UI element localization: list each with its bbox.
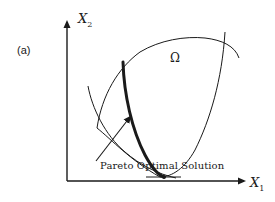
y-axis-label-subscript: 2 xyxy=(87,20,92,29)
x-axis-label: X1 xyxy=(250,176,264,193)
feasible-region-boundary xyxy=(97,32,239,177)
annotation-arrow xyxy=(96,117,130,161)
pareto-annotation-label: Pareto Optimal Solution xyxy=(100,161,224,171)
y-axis-label-text: X xyxy=(78,11,87,26)
panel-label: (a) xyxy=(17,45,30,56)
region-label: Ω xyxy=(170,52,180,64)
x-axis-label-text: X xyxy=(250,175,259,190)
x-axis-label-subscript: 1 xyxy=(259,184,264,193)
pareto-endpoint xyxy=(162,175,166,179)
y-axis-label: X2 xyxy=(78,12,92,29)
diagram-canvas xyxy=(0,0,275,202)
